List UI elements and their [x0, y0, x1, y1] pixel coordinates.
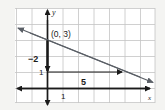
y-axis-label: y [51, 8, 56, 17]
point-label: (0, 3) [51, 29, 71, 39]
y-tick-label: 1 [39, 68, 44, 77]
run-label: 5 [81, 77, 86, 87]
rise-label: −2 [28, 54, 38, 64]
graph: y x (0, 3) −2 5 1 1 [0, 0, 165, 110]
x-tick-label: 1 [61, 92, 66, 101]
